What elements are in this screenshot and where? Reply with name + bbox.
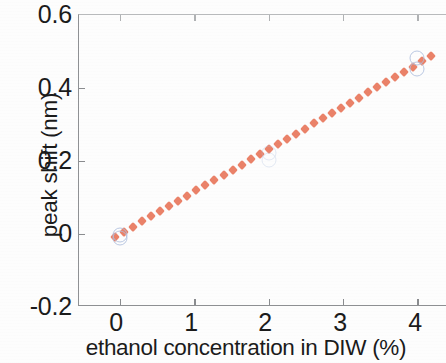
fit-line-dot bbox=[390, 72, 400, 82]
fit-line-dot bbox=[165, 201, 175, 211]
fit-line-dot bbox=[363, 87, 373, 97]
data-point-marker bbox=[112, 228, 127, 243]
fit-line-dot bbox=[336, 103, 346, 113]
fit-line-dot bbox=[228, 165, 238, 175]
fit-line-dot bbox=[210, 175, 220, 185]
fit-line-dot bbox=[399, 67, 409, 77]
fit-line-dot bbox=[345, 98, 355, 108]
plot-area bbox=[78, 14, 446, 306]
fit-line-dot bbox=[291, 129, 301, 139]
fit-line-dot bbox=[174, 196, 184, 206]
fit-line-dot bbox=[426, 51, 436, 61]
fit-line-dot bbox=[146, 211, 156, 221]
x-tick-label-0: 0 bbox=[109, 310, 123, 335]
x-tick-label-2: 2 bbox=[258, 310, 272, 335]
fit-line-dot bbox=[237, 160, 247, 170]
fit-line-dot bbox=[183, 191, 193, 201]
fit-line-dot bbox=[354, 93, 364, 103]
y-axis-title: peak shift (nm) bbox=[37, 15, 63, 315]
fit-line-dot bbox=[219, 170, 229, 180]
fit-line-dot bbox=[156, 206, 166, 216]
data-point-marker bbox=[261, 145, 276, 160]
x-tick-label-4: 4 bbox=[408, 310, 422, 335]
fit-line-dot bbox=[282, 134, 292, 144]
fit-line-dot bbox=[201, 180, 211, 190]
fit-line-dot bbox=[372, 82, 382, 92]
x-tick-label-3: 3 bbox=[333, 310, 347, 335]
data-point-marker bbox=[410, 51, 425, 66]
fit-line-dot bbox=[381, 77, 391, 87]
fit-line-dot bbox=[192, 186, 202, 196]
x-axis-title: ethanol concentration in DIW (%) bbox=[0, 335, 446, 361]
data-layer bbox=[79, 15, 446, 307]
fit-line-dot bbox=[137, 216, 147, 226]
fit-line-dot bbox=[300, 124, 310, 134]
fit-line-dot bbox=[246, 155, 256, 165]
fit-line-dot bbox=[128, 222, 138, 232]
fit-line-dot bbox=[309, 118, 319, 128]
x-tick-label-1: 1 bbox=[184, 310, 198, 335]
chart-figure: 0.6 0.4 0.2 0 -0.2 0 1 2 3 4 ethanol con… bbox=[0, 0, 446, 363]
fit-line-dot bbox=[318, 113, 328, 123]
fit-line-dot bbox=[327, 108, 337, 118]
